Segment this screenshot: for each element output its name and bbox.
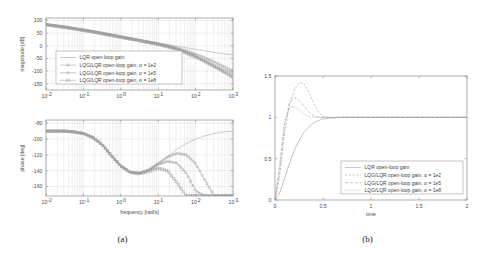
time-x-axis-label: time <box>366 211 376 217</box>
x-tick-exponent: -2 <box>47 91 52 97</box>
panel-a-bode: 100500-50-100-15010-210-1100101102103mag… <box>0 0 245 262</box>
legend-entry-label: LQG/LQR open-loop gain, σ = 1e5 <box>365 180 442 186</box>
phase-curve <box>46 131 233 173</box>
x-tick-exponent: 0 <box>123 91 126 97</box>
x-tick-exponent: 1 <box>160 197 163 203</box>
legend-entry-label: LQR open-loop gain <box>80 54 125 60</box>
legend-entry-label: LQG/LQR open-loop gain, σ = 1e5 <box>80 70 157 76</box>
phase-y-axis-label: phase [deg] <box>19 144 25 172</box>
x-tick-exponent: 1 <box>160 91 163 97</box>
x-tick-label: 10 <box>116 93 122 99</box>
x-tick-exponent: 3 <box>235 197 238 203</box>
step-plot-svg: 00.511.500.511.52timeLQR open-loop gainL… <box>245 0 490 232</box>
x-tick-exponent: 3 <box>235 91 238 97</box>
y-tick-label: -140 <box>32 168 42 174</box>
x-tick-label: 10 <box>191 199 197 205</box>
x-tick-exponent: -1 <box>85 197 90 203</box>
y-tick-label: -100 <box>32 136 42 142</box>
phase-curves <box>45 130 235 197</box>
figure-container: 100500-50-100-15010-210-1100101102103mag… <box>0 0 490 262</box>
x-tick-label: 2 <box>466 203 469 209</box>
magnitude-y-axis-label: magnitude [dB] <box>19 36 25 71</box>
phase-markers <box>45 130 235 197</box>
legend-entry-label: LQG/LQR open-loop gain, σ = 1e2 <box>365 172 442 178</box>
x-tick-exponent: -1 <box>85 91 90 97</box>
x-tick-label: 10 <box>191 93 197 99</box>
x-tick-label: 10 <box>229 199 235 205</box>
y-tick-label: -80 <box>35 120 43 126</box>
x-tick-label: 0 <box>274 203 277 209</box>
x-tick-exponent: 2 <box>198 91 201 97</box>
y-tick-label: 1 <box>269 114 272 120</box>
y-tick-label: 1.5 <box>264 73 271 79</box>
legend-entry-label: LQR open-loop gain <box>365 164 410 170</box>
x-tick-label: 0.5 <box>319 203 326 209</box>
y-tick-label: -120 <box>32 152 42 158</box>
panel-b-step: 00.511.500.511.52timeLQR open-loop gainL… <box>245 0 490 262</box>
x-tick-label: 10 <box>116 199 122 205</box>
phase-curve <box>46 131 233 196</box>
y-tick-label: 50 <box>37 30 43 36</box>
legend-entry-label: LQG/LQR open-loop gain, σ = 1e2 <box>80 62 157 68</box>
phase-markers <box>45 130 235 197</box>
phase-curve <box>46 131 233 196</box>
frequency-x-axis-label: frequency [rad/s] <box>120 209 159 215</box>
y-tick-label: 0 <box>40 43 43 49</box>
y-tick-label: 100 <box>34 17 43 23</box>
subfigure-caption-a: (a) <box>0 234 245 244</box>
x-tick-label: 10 <box>229 93 235 99</box>
x-tick-exponent: 0 <box>123 197 126 203</box>
y-tick-label: 0.5 <box>264 156 271 162</box>
subfigure-caption-b: (b) <box>245 234 490 244</box>
x-tick-exponent: -2 <box>47 197 52 203</box>
phase-curve <box>46 131 233 196</box>
y-tick-label: -100 <box>32 68 42 74</box>
step-legend: LQR open-loop gainLQG/LQR open-loop gain… <box>341 161 463 194</box>
x-tick-exponent: 2 <box>198 197 201 203</box>
x-tick-label: 10 <box>154 199 160 205</box>
legend-entry-label: LQG/LQR open-loop gain, σ = 1e8 <box>365 187 442 193</box>
y-tick-label: -50 <box>35 55 43 61</box>
x-tick-label: 10 <box>154 93 160 99</box>
phase-axes: -80-100-120-140-16010-210-1100101102103p… <box>19 120 238 215</box>
phase-markers <box>45 130 235 197</box>
x-tick-label: 1.5 <box>415 203 422 209</box>
bode-legend: LQR open-loop gainLQG/LQR open-loop gain… <box>56 51 182 84</box>
x-tick-label: 1 <box>370 203 373 209</box>
y-tick-label: 0 <box>269 197 272 203</box>
bode-plot-svg: 100500-50-100-15010-210-1100101102103mag… <box>0 0 245 232</box>
legend-entry-label: LQG/LQR open-loop gain, σ = 1e8 <box>80 77 157 83</box>
y-tick-label: -160 <box>32 183 42 189</box>
y-tick-label: -150 <box>32 81 42 87</box>
step-axes: 00.511.500.511.52time <box>264 73 468 217</box>
